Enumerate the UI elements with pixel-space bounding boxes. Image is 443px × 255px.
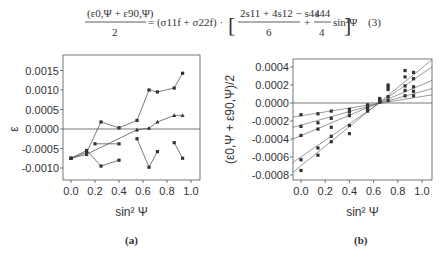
plot-b: 0.00040.00020.0000-0.0002-0.0004-0.0006-…	[222, 46, 443, 235]
marker-square	[330, 110, 333, 113]
marker-square	[316, 112, 319, 115]
marker-square	[181, 157, 184, 160]
y-tick-label: -0.0004	[252, 133, 289, 145]
x-tick-label: 0.6	[135, 185, 150, 197]
plot-b-frame	[293, 59, 432, 180]
caption-b: (b)	[354, 234, 367, 246]
marker-square	[403, 84, 406, 87]
marker-square	[330, 135, 333, 138]
svg-text:]: ]	[344, 12, 351, 37]
marker-square	[181, 72, 184, 75]
marker-square	[299, 125, 302, 128]
y-tick-label: 0.0010	[25, 84, 59, 96]
x-tick-label: 0.4	[111, 185, 126, 197]
eq-lhs-numerator: (ε0,Ψ + ε90,Ψ)	[87, 7, 154, 20]
x-axis-label: sin² Ψ	[346, 205, 379, 219]
marker-square	[299, 113, 302, 116]
marker-square	[348, 132, 351, 135]
svg-text:[: [	[228, 12, 235, 37]
marker-square	[156, 150, 159, 153]
marker-square	[173, 86, 176, 89]
y-tick-label: 0.0002	[255, 79, 289, 91]
x-tick-label: 0.0	[293, 185, 308, 197]
marker-square	[412, 85, 415, 88]
y-axis-label: (ε0,Ψ + ε90,Ψ)/2	[223, 75, 237, 164]
x-tick-label: 1.0	[183, 185, 198, 197]
y-tick-label: 0.0000	[255, 97, 289, 109]
x-tick-label: 0.4	[342, 185, 357, 197]
fit-line	[293, 81, 432, 140]
marker-square	[117, 126, 120, 129]
eq-frac1-denominator: 6	[266, 26, 272, 38]
marker-square	[117, 159, 120, 162]
fit-line	[293, 60, 432, 173]
equation-3: (ε0,Ψ + ε90,Ψ) 2 = (σ11f + σ22f) · [ 2s1…	[0, 0, 443, 46]
x-tick-label: 1.0	[414, 185, 429, 197]
marker-square	[135, 119, 138, 122]
x-axis-label: sin² Ψ	[115, 205, 148, 219]
x-tick-label: 0.0	[63, 185, 78, 197]
caption-a: (a)	[125, 234, 138, 246]
marker-square	[299, 158, 302, 161]
y-tick-label: 0.0000	[25, 123, 59, 135]
marker-square	[412, 90, 415, 93]
marker-square	[99, 164, 102, 167]
marker-square	[299, 169, 302, 172]
marker-square	[348, 124, 351, 127]
marker-square	[316, 154, 319, 157]
y-tick-label: -0.0005	[22, 143, 59, 155]
marker-square	[156, 90, 159, 93]
marker-square	[135, 137, 138, 140]
marker-square	[330, 126, 333, 129]
marker-square	[93, 142, 96, 145]
marker-triangle	[147, 126, 151, 130]
marker-square	[147, 88, 150, 91]
marker-square	[403, 94, 406, 97]
y-axis-label: ε	[7, 126, 21, 132]
series-line	[71, 150, 119, 166]
marker-square	[403, 69, 406, 72]
eq-plus: +	[304, 16, 310, 28]
series-line	[137, 139, 157, 167]
marker-square	[99, 120, 102, 123]
y-tick-label: 0.0015	[25, 65, 59, 77]
marker-square	[348, 114, 351, 117]
marker-square	[412, 94, 415, 97]
y-tick-label: 0.0004	[255, 61, 289, 73]
marker-square	[403, 75, 406, 78]
x-tick-label: 0.2	[87, 185, 102, 197]
marker-square	[412, 71, 415, 74]
series-line	[174, 143, 182, 159]
marker-square	[387, 83, 390, 86]
y-tick-label: -0.0008	[252, 169, 289, 181]
marker-square	[85, 149, 88, 152]
eq-frac2-numerator: s44	[315, 7, 331, 19]
equation-number: (3)	[368, 16, 381, 29]
fit-line	[293, 95, 432, 117]
marker-square	[348, 110, 351, 113]
plot-b-svg: 0.00040.00020.0000-0.0002-0.0004-0.0006-…	[222, 46, 443, 231]
y-tick-label: -0.0010	[22, 162, 59, 174]
marker-square	[403, 89, 406, 92]
marker-square	[387, 95, 390, 98]
marker-square	[147, 166, 150, 169]
marker-square	[316, 146, 319, 149]
marker-square	[366, 110, 369, 113]
x-tick-label: 0.8	[159, 185, 174, 197]
x-tick-label: 0.8	[390, 185, 405, 197]
marker-square	[387, 99, 390, 102]
marker-square	[378, 97, 381, 100]
fit-line	[293, 67, 432, 162]
marker-square	[173, 141, 176, 144]
fit-line	[293, 89, 432, 128]
equation-svg: (ε0,Ψ + ε90,Ψ) 2 = (σ11f + σ22f) · [ 2s1…	[0, 0, 443, 46]
y-tick-label: -0.0006	[252, 151, 289, 163]
marker-square	[316, 121, 319, 124]
marker-square	[299, 134, 302, 137]
y-tick-label: 0.0005	[25, 104, 59, 116]
plot-a: 0.00150.00100.00050.0000-0.0005-0.00100.…	[0, 46, 215, 235]
marker-square	[412, 77, 415, 80]
eq-middle: = (σ11f + σ22f) ·	[148, 16, 223, 29]
marker-square	[330, 117, 333, 120]
eq-frac2-denominator: 4	[319, 26, 325, 38]
